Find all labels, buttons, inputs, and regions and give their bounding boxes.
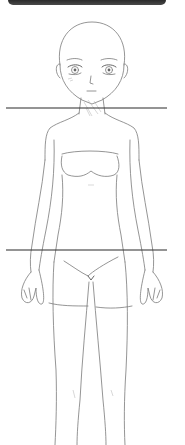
head [56, 22, 128, 104]
figure-sketch [0, 0, 185, 445]
torso [45, 113, 139, 262]
pelvis [49, 257, 132, 308]
right-eye [102, 65, 116, 75]
left-hand [21, 270, 43, 304]
left-eye [68, 65, 82, 75]
right-hand [140, 270, 162, 304]
legs [53, 262, 127, 445]
arms [30, 140, 153, 272]
